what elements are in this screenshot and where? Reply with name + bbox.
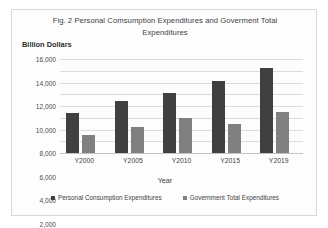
chart-legend: Personal Consumption ExpendituresGovernm… [12, 194, 318, 201]
y-axis-tick-label: 14,000 [36, 79, 56, 86]
x-axis-tick-label: Y2015 [206, 157, 255, 164]
legend-swatch [51, 196, 55, 200]
bar-group [60, 59, 109, 153]
bars-layer [60, 59, 303, 153]
chart-title: Fig. 2 Personal Comsumption Expenditures… [32, 15, 298, 38]
gridline: - [60, 153, 303, 154]
legend-label: Personal Consumption Expenditures [58, 194, 162, 201]
y-axis-tick-label: 16,000 [36, 56, 56, 63]
x-axis-tick-labels: Y2000Y2005Y2010Y2015Y2019 [60, 157, 303, 169]
y-axis-unit-label: Billion Dollars [22, 40, 72, 49]
bar[interactable] [131, 127, 144, 153]
y-axis-tick-label: 12,000 [36, 103, 56, 110]
bar-group [254, 59, 303, 153]
legend-swatch [183, 196, 187, 200]
legend-item[interactable]: Personal Consumption Expenditures [51, 194, 162, 201]
bar[interactable] [115, 101, 128, 153]
chart-container: Fig. 2 Personal Comsumption Expenditures… [11, 9, 317, 216]
y-axis-tick-label: 8,000 [39, 150, 56, 157]
bar[interactable] [212, 81, 225, 153]
bar[interactable] [260, 68, 273, 153]
bar[interactable] [66, 113, 79, 153]
bar[interactable] [276, 112, 289, 153]
y-axis-tick-label: 2,000 [39, 220, 56, 227]
bar[interactable] [82, 135, 95, 153]
bar-group [109, 59, 158, 153]
bar[interactable] [228, 124, 241, 153]
x-axis-tick-label: Y2005 [109, 157, 158, 164]
plot-area: 16,00014,00012,00010,0008,0006,0004,0002… [60, 59, 303, 153]
bar-group [157, 59, 206, 153]
bar[interactable] [179, 118, 192, 153]
y-axis-tick-label: 10,000 [36, 126, 56, 133]
x-axis-title: Year [12, 176, 318, 185]
legend-item[interactable]: Government Total Expenditures [183, 194, 279, 201]
x-axis-tick-label: Y2000 [60, 157, 109, 164]
bar[interactable] [163, 93, 176, 154]
legend-label: Government Total Expenditures [190, 194, 279, 201]
bar-group [206, 59, 255, 153]
x-axis-tick-label: Y2019 [254, 157, 303, 164]
x-axis-tick-label: Y2010 [157, 157, 206, 164]
